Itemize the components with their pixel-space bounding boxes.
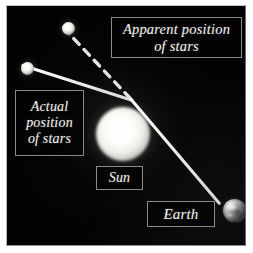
- diagram-panel: Apparent position of stars Actual positi…: [6, 5, 246, 246]
- label-actual-position-of-stars: Actual position of stars: [15, 90, 84, 156]
- star-upper-icon: [62, 22, 75, 35]
- gravitational-lensing-figure: Apparent position of stars Actual positi…: [0, 0, 253, 253]
- actual-ray-deflected: [131, 99, 219, 203]
- label-actual-text: Actual position of stars: [26, 99, 73, 146]
- label-actual-line3: of stars: [28, 131, 71, 146]
- star-lower-icon: [21, 62, 34, 75]
- label-sun-text: Sun: [109, 170, 131, 186]
- label-apparent-line2: of stars: [154, 38, 199, 54]
- label-actual-line2: position: [26, 115, 73, 130]
- label-sun: Sun: [96, 166, 143, 190]
- label-apparent-line1: Apparent position: [123, 21, 230, 37]
- earth-surface-texture: [223, 199, 246, 222]
- label-apparent-text: Apparent position of stars: [123, 21, 230, 53]
- label-actual-line1: Actual: [31, 99, 69, 114]
- label-apparent-position-of-stars: Apparent position of stars: [111, 17, 242, 58]
- earth-sphere: [223, 199, 246, 222]
- label-earth-text: Earth: [163, 206, 198, 223]
- label-earth: Earth: [147, 201, 215, 227]
